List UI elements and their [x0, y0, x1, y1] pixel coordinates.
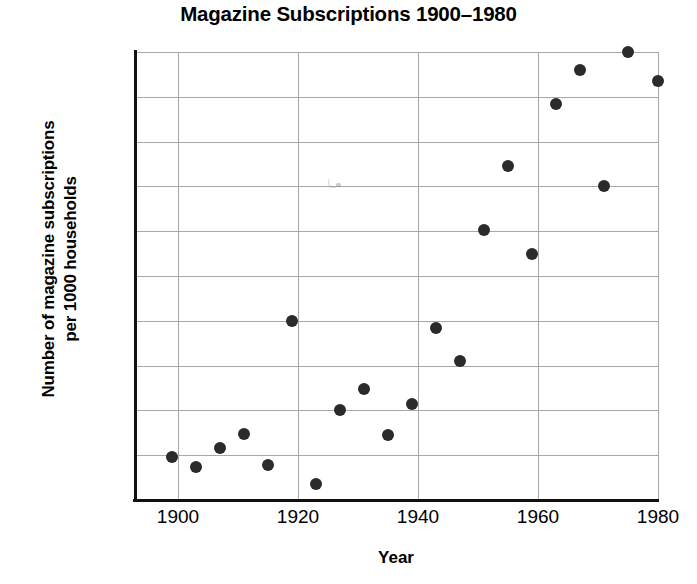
- gridline-vertical: [658, 52, 659, 500]
- scatter-chart-figure: Magazine Subscriptions 1900–1980 Number …: [0, 0, 697, 584]
- x-tick-label: 1920: [253, 506, 343, 528]
- data-point: [262, 459, 274, 471]
- y-axis-line: [134, 50, 137, 502]
- data-point: [622, 46, 634, 58]
- data-point: [286, 315, 298, 327]
- chart-title: Magazine Subscriptions 1900–1980: [0, 2, 697, 26]
- y-axis-title-line-1: Number of magazine subscriptions: [38, 94, 60, 424]
- x-tick-label: 1940: [373, 506, 463, 528]
- data-point: [214, 442, 226, 454]
- gridline-horizontal: [134, 455, 658, 456]
- x-axis-line: [133, 499, 659, 502]
- gridline-horizontal: [134, 321, 658, 322]
- data-point: [406, 398, 418, 410]
- gridline-horizontal: [134, 186, 658, 187]
- data-point: [238, 428, 250, 440]
- gridline-horizontal: [134, 97, 658, 98]
- data-point: [502, 160, 514, 172]
- data-point: [358, 383, 370, 395]
- gridline-horizontal: [134, 52, 658, 53]
- data-point: [334, 404, 346, 416]
- data-point: [454, 355, 466, 367]
- data-point: [550, 98, 562, 110]
- data-point: [430, 322, 442, 334]
- gridline-horizontal: [134, 231, 658, 232]
- gridline-horizontal: [134, 366, 658, 367]
- data-point: [166, 451, 178, 463]
- y-axis-title: Number of magazine subscriptions per 100…: [38, 94, 84, 424]
- plot-area: [134, 52, 658, 500]
- data-point: [190, 461, 202, 473]
- gridline-horizontal: [134, 276, 658, 277]
- data-point: [478, 224, 490, 236]
- y-axis-title-line-2: per 1000 households: [60, 94, 82, 424]
- gridline-vertical: [178, 52, 179, 500]
- gridline-horizontal: [134, 410, 658, 411]
- data-point: [574, 64, 586, 76]
- data-point: [652, 75, 664, 87]
- x-tick-label: 1900: [133, 506, 223, 528]
- gridline-vertical: [538, 52, 539, 500]
- data-point: [598, 180, 610, 192]
- gridline-vertical: [298, 52, 299, 500]
- data-point: [310, 478, 322, 490]
- gridline-vertical: [418, 52, 419, 500]
- data-point: [526, 248, 538, 260]
- gridline-horizontal: [134, 142, 658, 143]
- x-tick-label: 1960: [493, 506, 583, 528]
- x-axis-title: Year: [134, 548, 658, 568]
- x-tick-label: 1980: [613, 506, 697, 528]
- data-point: [382, 429, 394, 441]
